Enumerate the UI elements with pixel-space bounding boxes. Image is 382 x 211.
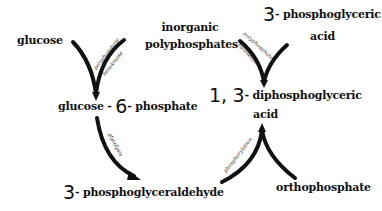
node-g6p-part2: - phosphate	[127, 100, 197, 113]
node-glucose-6-phosphate: glucose - 6- phosphate	[58, 100, 198, 113]
node-glucose: glucose	[17, 35, 63, 47]
node-inorganic-line1: inorganic	[145, 22, 235, 34]
phosphorylation-arrow	[222, 123, 295, 182]
node-inorganic-line2: polyphosphates	[145, 39, 235, 51]
node-g6p-six: 6	[115, 95, 127, 117]
node-1-3-diphosphoglyceric-acid: 1, 3- diphosphoglyceric	[209, 89, 362, 102]
node-g6p-part1: glucose -	[58, 100, 112, 113]
node-dpga-prefix: 1, 3	[209, 84, 244, 106]
node-orthophosphate: orthophosphate	[276, 182, 371, 194]
node-dpga-rest: - diphosphoglyceric	[244, 89, 361, 102]
node-dpga-acid: acid	[253, 109, 278, 121]
node-g3p-rest: - phosphoglyceraldehyde	[75, 186, 224, 199]
node-3pga-rest: - phosphoglyceric	[275, 8, 381, 21]
node-3-phosphoglyceraldehyde: 3- phosphoglyceraldehyde	[63, 186, 224, 199]
node-3-phosphoglyceric-acid: 3- phosphoglyceric	[263, 8, 381, 21]
node-g3p-prefix: 3	[63, 181, 75, 203]
left-converging-arrow	[73, 40, 124, 101]
enzyme-label-phosphorylation: phosphorylation	[222, 136, 254, 174]
node-3pga-prefix: 3	[263, 3, 275, 25]
node-3pga-acid: acid	[310, 31, 335, 43]
node-inorganic-polyphosphates: inorganic polyphosphates	[145, 22, 235, 51]
